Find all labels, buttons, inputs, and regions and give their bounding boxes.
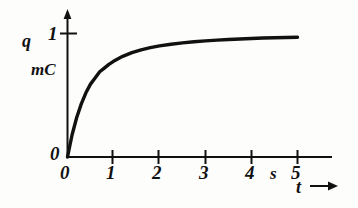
y-axis-arrow-icon	[64, 9, 72, 19]
x-tick-label-4: 4	[245, 163, 255, 182]
figure-canvas: q 1 mC 0 0 1 2 3 4 s 5 t	[0, 0, 358, 208]
x-tick-label-1: 1	[106, 163, 116, 182]
y-axis-label: q	[22, 32, 31, 50]
x-tick-label-3: 3	[199, 163, 209, 182]
x-axis-label: t	[296, 178, 301, 196]
x-axis-arrow-icon	[310, 182, 338, 191]
x-axis-unit-label: s	[270, 165, 277, 182]
x-tick-label-2: 2	[152, 163, 162, 182]
y-tick-label-1: 1	[48, 24, 58, 43]
data-curve	[68, 37, 298, 157]
x-tick-label-0: 0	[60, 163, 70, 182]
y-tick-label-0: 0	[50, 144, 60, 163]
y-axis-unit-label: mC	[31, 61, 56, 78]
